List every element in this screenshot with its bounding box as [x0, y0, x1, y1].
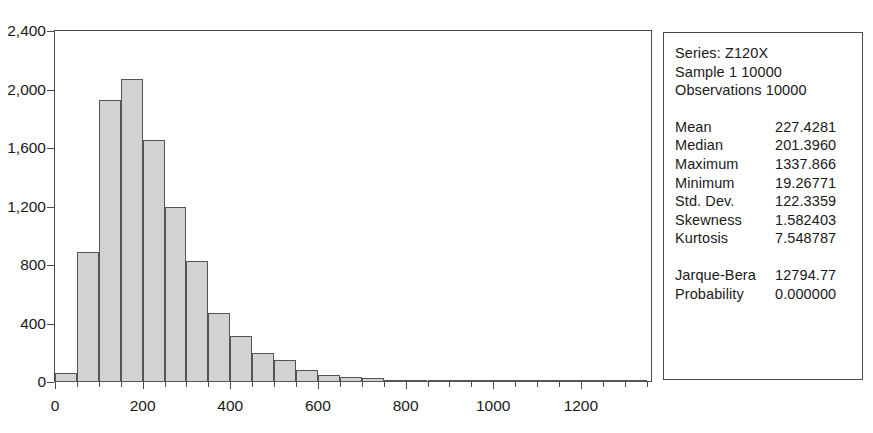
histogram-bar	[384, 380, 406, 382]
x-axis-minor-tick	[625, 382, 626, 387]
stat-label: Jarque-Bera	[675, 266, 775, 285]
histogram-bar	[274, 360, 296, 382]
x-axis-tick-label: 600	[283, 398, 353, 413]
statistics-panel: Series: Z120X Sample 1 10000 Observation…	[663, 32, 863, 380]
y-axis-tick-label: 1,200	[2, 199, 46, 214]
x-axis-minor-tick	[537, 382, 538, 387]
histogram-bar	[559, 380, 581, 382]
y-axis-tick-label: 2,000	[2, 82, 46, 97]
y-axis-tick-label: 400	[2, 316, 46, 331]
histogram-bar	[252, 353, 274, 382]
histogram-bar	[537, 380, 559, 382]
x-axis-tick-label: 0	[20, 398, 90, 413]
x-axis-major-tick	[318, 382, 319, 389]
x-axis-minor-tick	[208, 382, 209, 387]
x-axis-major-tick	[406, 382, 407, 389]
x-axis-minor-tick	[471, 382, 472, 387]
histogram-bar	[581, 380, 603, 382]
x-axis-tick-label: 1000	[458, 398, 528, 413]
histogram-bar	[143, 140, 165, 382]
histogram-bar	[406, 380, 428, 382]
histogram-bar	[165, 207, 187, 383]
spacer-2	[675, 248, 862, 266]
x-axis-tick-label: 800	[371, 398, 441, 413]
x-axis-tick-label: 400	[195, 398, 265, 413]
y-axis-tick-label: 0	[2, 374, 46, 389]
histogram-bar	[362, 378, 384, 382]
x-axis-minor-tick	[296, 382, 297, 387]
y-axis-tick	[47, 207, 54, 208]
chart-area: 04008001,2001,6002,0002,4000200400600800…	[0, 0, 660, 433]
y-axis-tick	[47, 265, 54, 266]
y-axis-tick	[47, 148, 54, 149]
x-axis-minor-tick	[77, 382, 78, 387]
stat-value: 7.548787	[775, 229, 836, 248]
stat-value: 227.4281	[775, 118, 836, 137]
x-axis-minor-tick	[186, 382, 187, 387]
stat-label: Maximum	[675, 155, 775, 174]
x-axis-minor-tick	[165, 382, 166, 387]
x-axis-minor-tick	[121, 382, 122, 387]
x-axis-minor-tick	[515, 382, 516, 387]
x-axis-minor-tick	[99, 382, 100, 387]
test-row: Probability0.000000	[675, 285, 862, 304]
stat-label: Std. Dev.	[675, 192, 775, 211]
x-axis-minor-tick	[384, 382, 385, 387]
stat-value: 122.3359	[775, 192, 836, 211]
stat-row: Std. Dev.122.3359	[675, 192, 862, 211]
histogram-bar	[121, 79, 143, 382]
normality-test-list: Jarque-Bera12794.77Probability0.000000	[675, 266, 862, 303]
x-axis-minor-tick	[252, 382, 253, 387]
histogram-bar	[99, 100, 121, 382]
histogram-bars	[55, 31, 651, 382]
x-axis-minor-tick	[559, 382, 560, 387]
stat-label: Minimum	[675, 174, 775, 193]
y-axis-tick-label: 2,400	[2, 23, 46, 38]
x-axis-major-tick	[143, 382, 144, 389]
stat-value: 19.26771	[775, 174, 836, 193]
stat-label: Probability	[675, 285, 775, 304]
y-axis-tick	[47, 324, 54, 325]
test-row: Jarque-Bera12794.77	[675, 266, 862, 285]
stat-label: Median	[675, 136, 775, 155]
histogram-bar	[471, 380, 493, 382]
sample-range-line: Sample 1 10000	[675, 63, 862, 82]
x-axis-minor-tick	[449, 382, 450, 387]
stat-row: Kurtosis7.548787	[675, 229, 862, 248]
stat-value: 1.582403	[775, 211, 836, 230]
histogram-figure: 04008001,2001,6002,0002,4000200400600800…	[0, 0, 873, 433]
stat-value: 12794.77	[775, 266, 836, 285]
y-axis-tick-label: 800	[2, 257, 46, 272]
stat-row: Median201.3960	[675, 136, 862, 155]
x-axis-minor-tick	[603, 382, 604, 387]
stat-value: 1337.866	[775, 155, 836, 174]
x-axis-minor-tick	[274, 382, 275, 387]
histogram-bar	[208, 313, 230, 382]
x-axis-major-tick	[493, 382, 494, 389]
x-axis-minor-tick	[647, 382, 648, 387]
histogram-bar	[55, 373, 77, 382]
histogram-bar	[603, 380, 625, 382]
x-axis-minor-tick	[362, 382, 363, 387]
stat-value: 201.3960	[775, 136, 836, 155]
stat-row: Mean227.4281	[675, 118, 862, 137]
x-axis-major-tick	[55, 382, 56, 389]
stat-label: Skewness	[675, 211, 775, 230]
x-axis-minor-tick	[428, 382, 429, 387]
x-axis-tick-label: 200	[108, 398, 178, 413]
x-axis-minor-tick	[340, 382, 341, 387]
x-axis-tick-label: 1200	[546, 398, 616, 413]
y-axis-tick	[47, 31, 54, 32]
y-axis-tick	[47, 90, 54, 91]
stat-row: Skewness1.582403	[675, 211, 862, 230]
histogram-bar	[428, 380, 450, 382]
histogram-bar	[186, 261, 208, 382]
histogram-bar	[449, 380, 471, 382]
descriptive-stats-list: Mean227.4281Median201.3960Maximum1337.86…	[675, 118, 862, 248]
series-name-line: Series: Z120X	[675, 44, 862, 63]
x-axis-major-tick	[581, 382, 582, 389]
spacer	[675, 100, 862, 118]
y-axis-tick-label: 1,600	[2, 140, 46, 155]
stat-label: Mean	[675, 118, 775, 137]
stat-row: Minimum19.26771	[675, 174, 862, 193]
